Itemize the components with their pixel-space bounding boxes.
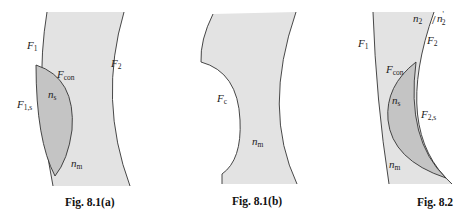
label-F1-c: F1 [357, 37, 369, 51]
caption-fig-8-1b: Fig. 8.1(b) [232, 195, 282, 208]
label-F2-c: F2 [426, 34, 438, 48]
label-Fc-b: Fc [216, 92, 228, 106]
matrix-region-b [201, 12, 297, 184]
label-F1-a: F1 [26, 39, 38, 53]
label-F2s-c: F2,s [420, 108, 436, 122]
caption-fig-8-2: Fig. 8.2 [417, 196, 453, 209]
figure-8-1b: Fc nm Fig. 8.1(b) [201, 12, 297, 208]
diagram-canvas: F1 F2 Fcon F1,s ns nm Fig. 8.1(a) Fc nm … [0, 0, 467, 216]
label-n2prime-c: n'2 [437, 10, 446, 27]
label-F2-a: F2 [110, 57, 122, 71]
figure-8-1a: F1 F2 Fcon F1,s ns nm Fig. 8.1(a) [16, 12, 130, 209]
caption-fig-8-1a: Fig. 8.1(a) [65, 196, 115, 209]
slash-separator: / [432, 12, 436, 27]
figure-8-2: F1 n2 / n'2 F2 Fcon ns F2,s nm Fig. 8.2 [357, 10, 453, 209]
label-F1s-a: F1,s [16, 98, 32, 112]
